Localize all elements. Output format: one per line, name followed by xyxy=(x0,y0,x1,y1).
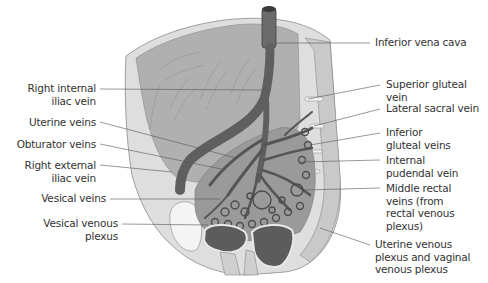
label-inferior-gluteal-veins: Inferior gluteal veins xyxy=(386,126,451,151)
label-obturator-veins: Obturator veins xyxy=(17,138,96,151)
label-vesical-veins: Vesical veins xyxy=(41,192,106,205)
label-uterine-veins: Uterine veins xyxy=(29,116,96,129)
label-right-external-iliac-vein: Right external iliac vein xyxy=(25,159,96,184)
label-internal-pudendal-vein: Internal pudendal vein xyxy=(386,154,458,179)
label-right-internal-iliac-vein: Right internal iliac vein xyxy=(28,82,96,107)
label-inferior-vena-cava: Inferior vena cava xyxy=(375,36,467,49)
label-lateral-sacral-vein: Lateral sacral vein xyxy=(386,102,479,115)
label-middle-rectal-veins: Middle rectal veins (from rectal venous … xyxy=(386,182,454,232)
label-vesical-venous-plexus: Vesical venous plexus xyxy=(43,217,118,242)
label-superior-gluteal-vein: Superior gluteal vein xyxy=(386,78,488,103)
label-uterine-vaginal-venous-plexus: Uterine venous plexus and vaginal venous… xyxy=(375,238,470,276)
